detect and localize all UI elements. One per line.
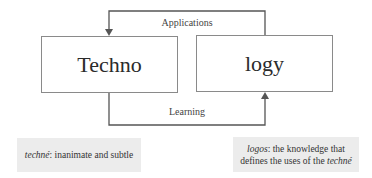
arrowhead-up-icon: [261, 92, 269, 99]
note-logos-text-1: : the knowledge that: [268, 144, 345, 154]
note-techne-text: : inanimate and subtle: [50, 150, 134, 160]
note-techne-term: techné: [25, 150, 50, 160]
edge-label-applications: Applications: [161, 17, 212, 28]
node-techno-label: Techno: [77, 52, 141, 78]
arrowhead-down-icon: [105, 29, 113, 36]
node-techno: Techno: [41, 36, 178, 93]
note-techne: techné: inanimate and subtle: [17, 138, 141, 172]
note-logos-text-2: defines the uses of the: [240, 156, 327, 166]
edge-label-learning: Learning: [169, 106, 205, 117]
note-logos: logos: the knowledge that defines the us…: [233, 137, 359, 172]
node-logy-label: logy: [245, 51, 284, 77]
node-logy: logy: [196, 35, 333, 92]
note-logos-term: logos: [247, 144, 268, 154]
note-logos-term2: techné: [327, 156, 352, 166]
